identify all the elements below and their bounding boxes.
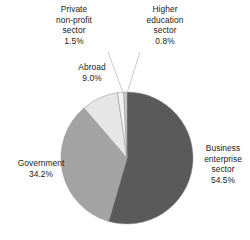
slice-label-abroad: Abroad 9.0% (56, 62, 128, 83)
slice-label-line: sector (126, 25, 204, 36)
slice-label-higher-education-sector: Higher education sector 0.8% (126, 4, 204, 46)
slice-value-label: 1.5% (38, 36, 110, 47)
slice-label-government: Government 34.2% (2, 158, 80, 179)
slice-value-label: 34.2% (2, 169, 80, 180)
slice-label-line: Government (2, 158, 80, 169)
slice-label-line: sector (196, 164, 250, 175)
slice-label-line: Business (196, 143, 250, 154)
slice-label-line: sector (38, 25, 110, 36)
slice-label-line: Higher (126, 4, 204, 15)
pie-slice-group (61, 92, 193, 224)
leader-line-higher_education (127, 52, 140, 93)
slice-value-label: 54.5% (196, 175, 250, 186)
pie-chart: Private non-profit sector 1.5% Higher ed… (0, 0, 250, 240)
slice-value-label: 0.8% (126, 36, 204, 47)
slice-label-line: enterprise (196, 154, 250, 165)
slice-label-private-non-profit-sector: Private non-profit sector 1.5% (38, 4, 110, 46)
slice-label-line: non-profit (38, 15, 110, 26)
slice-label-business-enterprise-sector: Business enterprise sector 54.5% (196, 143, 250, 185)
slice-label-line: Abroad (56, 62, 128, 73)
slice-value-label: 9.0% (56, 73, 128, 84)
slice-label-line: education (126, 15, 204, 26)
slice-label-line: Private (38, 4, 110, 15)
